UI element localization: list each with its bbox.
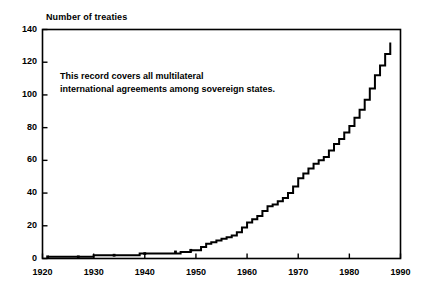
plot-border bbox=[43, 30, 401, 259]
y-tick-label: 120 bbox=[4, 56, 37, 66]
x-tick-label: 1960 bbox=[227, 267, 267, 277]
data-point-marker bbox=[46, 255, 49, 258]
data-point-marker bbox=[174, 251, 177, 254]
y-tick-label: 40 bbox=[4, 187, 37, 197]
x-tick-label: 1980 bbox=[329, 267, 369, 277]
x-tick-label: 1990 bbox=[381, 267, 421, 277]
x-tick-label: 1930 bbox=[74, 267, 114, 277]
chart-annotation: This record covers all multilateral inte… bbox=[60, 70, 275, 96]
data-point-marker bbox=[143, 252, 146, 255]
y-tick-label: 140 bbox=[4, 24, 37, 34]
x-tick-label: 1920 bbox=[23, 267, 63, 277]
y-axis-title: Number of treaties bbox=[46, 12, 127, 22]
x-tick-label: 1940 bbox=[125, 267, 165, 277]
y-tick-label: 0 bbox=[4, 253, 37, 263]
x-tick-label: 1970 bbox=[278, 267, 318, 277]
y-tick-label: 80 bbox=[4, 122, 37, 132]
y-tick-label: 60 bbox=[4, 154, 37, 164]
y-tick-label: 100 bbox=[4, 89, 37, 99]
y-tick-label: 20 bbox=[4, 220, 37, 230]
axis-tick-marks bbox=[43, 30, 401, 259]
x-tick-label: 1950 bbox=[176, 267, 216, 277]
data-point-marker bbox=[77, 255, 80, 258]
chart-container: Number of treaties This record covers al… bbox=[0, 0, 423, 291]
treaties-line-chart bbox=[0, 0, 423, 291]
data-point-marker bbox=[113, 254, 116, 257]
data-point-marker bbox=[189, 249, 192, 252]
plot-frame bbox=[43, 30, 401, 259]
